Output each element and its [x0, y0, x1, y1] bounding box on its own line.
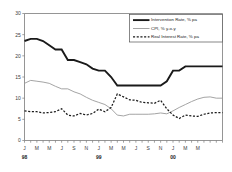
y-tick-label: 0 — [18, 137, 21, 143]
line-chart: 051015202530 JMMJSNJMMJSNJMM 989900 Inte… — [0, 0, 232, 172]
series-line-dashed — [25, 94, 223, 119]
y-axis: 051015202530 — [15, 10, 24, 143]
year-label: 00 — [170, 154, 176, 160]
chart-container: 051015202530 JMMJSNJMMJSNJMM 989900 Inte… — [0, 0, 232, 172]
x-tick-label: M — [121, 145, 125, 151]
x-tick-label: M — [183, 145, 187, 151]
y-tick-label: 10 — [15, 95, 21, 101]
y-tick-label: 20 — [15, 53, 21, 59]
x-tick-label: M — [35, 145, 39, 151]
y-tick-label: 25 — [15, 32, 21, 38]
x-tick-label: J — [60, 145, 63, 151]
y-tick-label: 15 — [15, 74, 21, 80]
chart-legend: Intervention Rate, % paCPI, % y-o-yReal … — [130, 15, 223, 43]
legend-label: Intervention Rate, % pa — [151, 17, 197, 22]
year-label: 98 — [22, 154, 28, 160]
y-tick-label: 30 — [15, 10, 21, 16]
x-tick-label: J — [23, 145, 26, 151]
series-lines — [25, 39, 223, 119]
x-tick-label: S — [72, 145, 76, 151]
x-tick-label: J — [135, 145, 138, 151]
x-tick-label: N — [159, 145, 163, 151]
series-line-solid-thick — [25, 39, 223, 86]
x-tick-label: M — [47, 145, 51, 151]
x-tick-label: J — [98, 145, 101, 151]
legend-label: Real Interest Rate, % pa — [151, 34, 199, 39]
x-tick-label: M — [196, 145, 200, 151]
x-tick-label: S — [147, 145, 151, 151]
legend-label: CPI, % y-o-y — [151, 26, 176, 31]
x-axis: JMMJSNJMMJSNJMM — [23, 141, 222, 152]
x-tick-label: N — [85, 145, 89, 151]
x-tick-label: J — [172, 145, 175, 151]
year-labels: 989900 — [22, 154, 176, 160]
x-tick-label: M — [109, 145, 113, 151]
y-tick-label: 5 — [18, 116, 21, 122]
year-label: 99 — [96, 154, 102, 160]
